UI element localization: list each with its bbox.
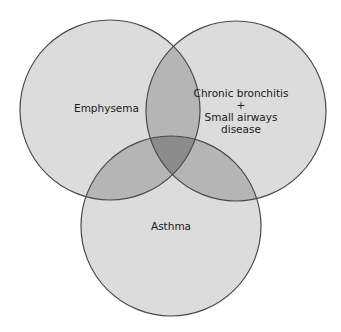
venn-diagram: Emphysema Chronic bronchitis + Small air…: [0, 0, 341, 332]
asthma-label: Asthma: [151, 220, 191, 232]
plus-label: +: [237, 99, 246, 111]
chronic-bronchitis-label: Chronic bronchitis: [194, 87, 289, 99]
disease-label: disease: [221, 123, 261, 135]
emphysema-label: Emphysema: [74, 102, 139, 114]
small-airways-label: Small airways: [205, 111, 278, 123]
